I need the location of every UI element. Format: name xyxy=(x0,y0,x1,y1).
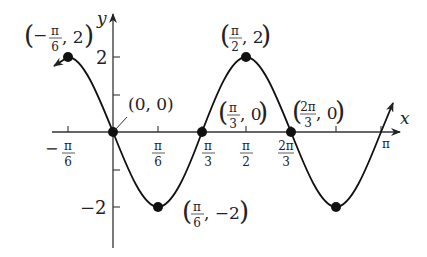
svg-text:): ) xyxy=(258,97,268,127)
svg-text:π: π xyxy=(382,137,390,151)
svg-text:π: π xyxy=(204,139,212,153)
svg-text:π: π xyxy=(64,139,72,153)
x-tick-pi: π xyxy=(382,137,390,151)
svg-text:): ) xyxy=(84,20,94,50)
svg-text:2: 2 xyxy=(231,40,239,54)
svg-text:π: π xyxy=(231,24,239,38)
svg-text:): ) xyxy=(335,96,345,126)
svg-text:−: − xyxy=(33,25,47,45)
point-max-pi-2 xyxy=(241,52,251,62)
x-tick-pi-2: π 2 xyxy=(240,139,253,169)
svg-text:π: π xyxy=(154,139,162,153)
y-axis-label: y xyxy=(96,8,107,28)
svg-text:2: 2 xyxy=(242,155,250,169)
annotation-neg-pi-6-2: ( − π 6 , 2 ) xyxy=(24,20,94,54)
x-tick-pi-3: π 3 xyxy=(202,139,215,169)
svg-text:(: ( xyxy=(220,20,230,50)
svg-text:6: 6 xyxy=(51,40,59,54)
svg-text:3: 3 xyxy=(229,117,237,131)
svg-text:, −2: , −2 xyxy=(204,203,240,223)
origin-leader xyxy=(115,117,127,130)
point-zero-2pi-3 xyxy=(286,127,296,137)
point-zero-pi-3 xyxy=(197,127,207,137)
annotation-2pi-3-0: ( 2π 3 , 0 ) xyxy=(292,96,345,130)
svg-text:2π: 2π xyxy=(300,100,316,114)
svg-text:(: ( xyxy=(218,97,228,127)
svg-text:3: 3 xyxy=(304,116,312,130)
svg-text:(: ( xyxy=(182,196,192,226)
x-axis-label: x xyxy=(400,108,410,128)
svg-text:π: π xyxy=(193,200,201,214)
annotation-pi-6-neg2: ( π 6 , −2 ) xyxy=(182,196,249,230)
svg-text:): ) xyxy=(239,196,249,226)
x-tick-pi-6: π 6 xyxy=(152,139,165,169)
point-min-pi-6 xyxy=(153,202,163,212)
svg-text:−: − xyxy=(45,139,58,158)
svg-text:π: π xyxy=(229,101,237,115)
svg-text:3: 3 xyxy=(282,155,290,169)
svg-text:π: π xyxy=(242,139,250,153)
y-tick-2: 2 xyxy=(96,47,107,68)
svg-text:π: π xyxy=(51,24,59,38)
x-tick-2pi-3: 2π 3 xyxy=(278,139,294,169)
x-tick-neg-pi-6: − π 6 xyxy=(45,139,75,169)
annotation-pi-2-2: ( π 2 , 2 ) xyxy=(220,20,271,54)
annotation-origin: (0, 0) xyxy=(128,94,174,114)
graph-canvas: y x 2 −2 − π 6 π 6 π 3 π 2 xyxy=(0,0,427,257)
svg-text:2π: 2π xyxy=(278,139,294,153)
svg-text:6: 6 xyxy=(154,155,162,169)
svg-text:, 2: , 2 xyxy=(62,27,84,47)
svg-text:3: 3 xyxy=(204,155,212,169)
svg-text:6: 6 xyxy=(193,216,201,230)
point-max-neg-pi-6 xyxy=(63,52,73,62)
svg-text:): ) xyxy=(261,20,271,50)
y-tick-neg2: −2 xyxy=(80,197,107,218)
svg-text:6: 6 xyxy=(64,155,72,169)
annotation-pi-3-0: ( π 3 , 0 ) xyxy=(218,97,268,131)
point-min-5pi-6 xyxy=(331,202,341,212)
